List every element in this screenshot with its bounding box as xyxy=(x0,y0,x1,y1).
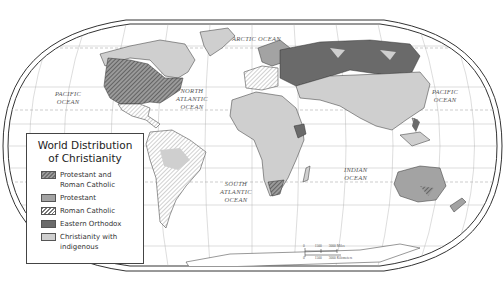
label-north-atlantic-ocean: NORTHATLANTICOCEAN xyxy=(176,87,208,111)
label-pacific-ocean-west: PACIFICOCEAN xyxy=(55,90,81,106)
label-pacific-ocean-east: PACIFICOCEAN xyxy=(432,88,458,104)
swatch-christianity-with-indigenous xyxy=(41,233,56,241)
label-south-atlantic-ocean: SOUTHATLANTICOCEAN xyxy=(220,180,252,204)
legend-item-eastern-orthodox: Eastern Orthodox xyxy=(41,219,143,229)
swatch-protestant-and-roman-catholic xyxy=(41,171,56,179)
legend-item-protestant-and-roman-catholic: Protestant andRoman Catholic xyxy=(41,170,143,190)
region-australia xyxy=(394,166,446,202)
swatch-eastern-orthodox xyxy=(41,220,56,228)
map-legend: World Distribution of Christianity Prote… xyxy=(26,133,144,264)
legend-item-roman-catholic: Roman Catholic xyxy=(41,206,143,216)
scale-miles: 015003000 Miles xyxy=(303,244,345,248)
legend-items: Protestant andRoman Catholic Protestant … xyxy=(27,170,143,252)
swatch-roman-catholic xyxy=(41,207,56,215)
label-arctic-ocean: ARCTIC OCEAN xyxy=(232,35,281,43)
legend-item-protestant: Protestant xyxy=(41,193,143,203)
legend-title: World Distribution of Christianity xyxy=(27,139,143,165)
scale-kilometers: 015003000 Kilometers xyxy=(303,256,352,260)
swatch-protestant xyxy=(41,194,56,202)
label-indian-ocean: INDIANOCEAN xyxy=(344,166,367,182)
legend-item-christianity-with-indigenous: Christianity withindigenous xyxy=(41,232,143,252)
